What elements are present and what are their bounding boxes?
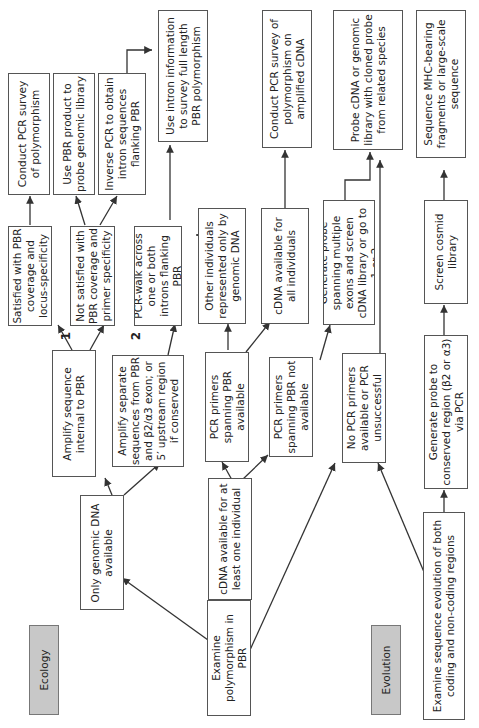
node-conduct-pcr: Conduct PCR survey of polymorphism bbox=[8, 73, 50, 195]
marker-2: 2 bbox=[129, 332, 143, 340]
node-pcr-spanning-available-text: PCR primers spanning PBR available bbox=[208, 355, 247, 460]
node-examine-pbr: Examine polymorphism in PBR bbox=[207, 600, 251, 716]
node-pcr-spanning-not: PCR primers spanning PBR not available bbox=[269, 357, 313, 457]
node-inverse-pcr-text: Inverse PCR to obtain intron sequences f… bbox=[103, 75, 142, 193]
node-probe-cdna-genomic-text: Probe cDNA or genomic library with clone… bbox=[349, 12, 388, 148]
node-only-genomic-text: Only genomic DNA available bbox=[89, 498, 115, 608]
node-pcr-walk: PCR-walk across one or both introns flan… bbox=[134, 226, 182, 326]
node-pcr-walk-text: PCR-walk across one or both introns flan… bbox=[134, 228, 182, 324]
node-satisfied: Satisfied with PBR coverage and locus-sp… bbox=[8, 226, 52, 326]
node-satisfied-text: Satisfied with PBR coverage and locus-sp… bbox=[11, 228, 50, 324]
category-ecology: Ecology bbox=[29, 625, 59, 715]
category-evolution: Evolution bbox=[371, 625, 401, 715]
node-not-satisfied-text: Not satisfied with PBR coverage and prim… bbox=[73, 228, 112, 324]
node-cdna-all-text: cDNA available for all individuals bbox=[272, 210, 298, 322]
node-other-individuals-text: Other individuals represented only by ge… bbox=[203, 210, 242, 322]
node-use-pbr-probe-text: Use PBR product to probe genomic library bbox=[61, 75, 87, 193]
node-cdna-all: cDNA available for all individuals bbox=[261, 208, 309, 324]
node-generate-conserved-text: Generate probe to conserved region (β2 o… bbox=[427, 337, 466, 487]
node-cdna-one-text: cDNA available for at least one individu… bbox=[217, 480, 243, 598]
category-ecology-label: Ecology bbox=[38, 625, 51, 715]
node-generate-multi: Generate probe spanning multiple exons a… bbox=[323, 200, 375, 325]
node-amplify-separate: Amplify separate sequences from PBR and … bbox=[112, 355, 184, 467]
node-use-intron-text: Use intron information to survey full le… bbox=[164, 12, 203, 140]
node-conduct-pcr-cdna-text: Conduct PCR survey of polymorphism on am… bbox=[268, 12, 307, 146]
node-use-intron: Use intron information to survey full le… bbox=[158, 10, 208, 142]
node-amplify-internal: Amplify sequence internal to PBR bbox=[52, 350, 96, 477]
node-amplify-separate-text: Amplify separate sequences from PBR and … bbox=[116, 357, 181, 465]
node-pcr-spanning-not-text: PCR primers spanning PBR not available bbox=[272, 359, 311, 455]
node-sequence-mhc: Sequence MHC-bearing fragments or large-… bbox=[416, 10, 466, 158]
node-no-pcr: No PCR primers available or PCR unsucces… bbox=[342, 353, 386, 463]
node-not-satisfied: Not satisfied with PBR coverage and prim… bbox=[70, 226, 115, 326]
node-no-pcr-text: No PCR primers available or PCR unsucces… bbox=[345, 356, 384, 461]
node-pcr-spanning-available: PCR primers spanning PBR available bbox=[205, 352, 249, 462]
node-only-genomic: Only genomic DNA available bbox=[80, 495, 124, 610]
node-generate-conserved: Generate probe to conserved region (β2 o… bbox=[424, 335, 468, 489]
node-cdna-one: cDNA available for at least one individu… bbox=[208, 478, 252, 600]
node-screen-cosmid: Screen cosmid library bbox=[424, 200, 468, 304]
node-generate-multi-text: Generate probe spanning multiple exons a… bbox=[323, 203, 375, 323]
node-examine-pbr-text: Examine polymorphism in PBR bbox=[210, 603, 249, 713]
category-evolution-label: Evolution bbox=[380, 625, 393, 715]
node-other-individuals: Other individuals represented only by ge… bbox=[198, 208, 246, 324]
node-screen-cosmid-text: Screen cosmid library bbox=[433, 202, 459, 302]
node-use-pbr-probe: Use PBR product to probe genomic library bbox=[53, 73, 95, 195]
node-amplify-internal-text: Amplify sequence internal to PBR bbox=[61, 354, 87, 474]
node-inverse-pcr: Inverse PCR to obtain intron sequences f… bbox=[98, 73, 146, 195]
node-probe-cdna-genomic: Probe cDNA or genomic library with clone… bbox=[333, 10, 403, 150]
node-sequence-mhc-text: Sequence MHC-bearing fragments or large-… bbox=[422, 12, 461, 156]
node-conduct-pcr-cdna: Conduct PCR survey of polymorphism on am… bbox=[262, 10, 312, 148]
node-examine-evolution: Examine sequence evolution of both codin… bbox=[423, 512, 465, 720]
node-examine-evolution-text: Examine sequence evolution of both codin… bbox=[431, 516, 457, 716]
marker-1: 1 bbox=[59, 332, 73, 340]
node-conduct-pcr-text: Conduct PCR survey of polymorphism bbox=[16, 75, 42, 193]
